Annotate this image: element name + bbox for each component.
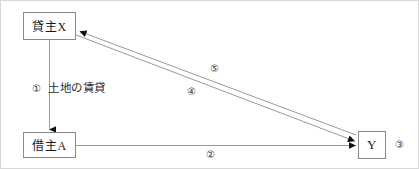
node-third-party[interactable]: Y [358, 131, 386, 159]
edge-label-four: ④ [187, 86, 196, 97]
edge-label-one: ① 土地の賃貸 [32, 79, 106, 95]
edge-label-two: ② [206, 149, 215, 160]
edge-line-four [76, 35, 355, 141]
edge-text-one: 土地の賃貸 [48, 79, 106, 95]
annotation-three: ③ [395, 139, 404, 150]
edge-number-one: ① [32, 83, 41, 94]
node-lessor[interactable]: 貸主X [23, 12, 76, 40]
edge-label-five: ⑤ [210, 63, 219, 74]
edge-line-five [80, 32, 356, 136]
node-lessee[interactable]: 借主A [23, 132, 76, 158]
node-lessee-label: 借主A [32, 136, 66, 154]
node-third-party-label: Y [367, 137, 377, 153]
node-lessor-label: 貸主X [32, 17, 66, 35]
diagram-canvas: 貸主X 借主A Y ① 土地の賃貸 ② ④ ⑤ ③ [0, 0, 419, 169]
